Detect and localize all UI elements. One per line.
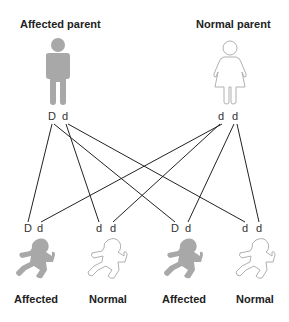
parent1-allele-2: d xyxy=(62,110,68,122)
male-figure-icon xyxy=(46,38,70,105)
parent2-allele-2: d xyxy=(232,110,238,122)
child3-allele-1: D xyxy=(171,222,179,234)
inheritance-diagram xyxy=(0,0,289,322)
parent-label-normal: Normal parent xyxy=(196,18,271,30)
line-p2d1-c2d xyxy=(113,124,220,222)
baby-figure-affected-2 xyxy=(164,239,203,279)
parent2-allele-1: d xyxy=(218,110,224,122)
parent-label-affected: Affected parent xyxy=(20,18,101,30)
child2-allele-1: d xyxy=(96,222,102,234)
inheritance-lines xyxy=(28,124,259,222)
parent1-allele-1: D xyxy=(48,110,56,122)
child2-allele-2: d xyxy=(110,222,116,234)
child3-allele-2: d xyxy=(185,222,191,234)
child4-label: Normal xyxy=(236,293,274,305)
child4-allele-2: d xyxy=(256,222,262,234)
baby-figure-normal-1 xyxy=(88,239,127,279)
child4-allele-1: d xyxy=(242,222,248,234)
child3-label: Affected xyxy=(162,293,206,305)
child2-label: Normal xyxy=(89,293,127,305)
child1-allele-1: D xyxy=(24,222,32,234)
line-p1D-c1D xyxy=(28,124,52,222)
child1-label: Affected xyxy=(14,293,58,305)
line-p2d2-c4d xyxy=(237,124,259,222)
child1-allele-2: d xyxy=(37,222,43,234)
baby-figure-affected-1 xyxy=(16,239,55,279)
baby-figure-normal-2 xyxy=(236,239,275,279)
female-figure-icon xyxy=(214,41,247,104)
